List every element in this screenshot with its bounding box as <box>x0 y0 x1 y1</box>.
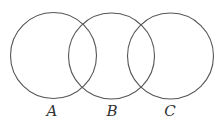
venn-diagram: A B C <box>0 0 221 126</box>
label-a: A <box>45 102 58 120</box>
label-b: B <box>105 102 117 120</box>
circle-b <box>69 13 155 99</box>
circle-c <box>128 13 214 99</box>
circle-a <box>11 13 97 99</box>
label-c: C <box>164 102 176 120</box>
